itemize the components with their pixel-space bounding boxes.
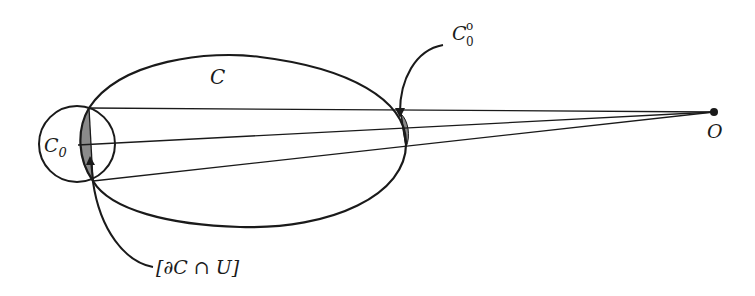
diagram: C C0 C o 0 [∂C ∩ U] O [0,0,755,296]
point-o [710,108,718,116]
label-curve-c: C [210,65,225,89]
arrow-c0-interior [400,45,443,112]
label-c0-interior-sup: o [466,19,473,33]
label-c0-interior: C [452,22,467,44]
ray-middle [78,112,714,145]
label-boundary-part: [∂C ∩ U] [156,256,240,278]
curve-c [80,55,406,227]
diagram-canvas: C C0 C o 0 [∂C ∩ U] O [0,0,755,296]
label-c0-interior-sub: 0 [466,35,474,49]
label-circle-c0: C0 [44,134,67,160]
label-point-o: O [707,120,723,142]
